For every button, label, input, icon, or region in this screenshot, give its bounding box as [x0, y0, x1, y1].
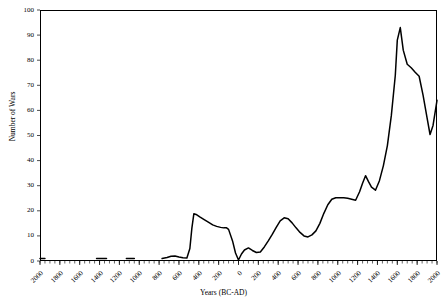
y-tick-label: 30 [12, 182, 34, 189]
y-tick-label: 40 [12, 157, 34, 164]
y-tick-label: 10 [12, 232, 34, 239]
data-series-line [40, 28, 437, 260]
y-axis-ticks [37, 10, 40, 261]
y-tick-label: 100 [12, 7, 34, 14]
y-axis-title: Number of Wars [8, 77, 17, 157]
x-axis-title: Years (BC-AD) [0, 288, 447, 297]
y-tick-label: 90 [12, 32, 34, 39]
chart-svg-layer [0, 0, 447, 306]
y-tick-label: 0 [12, 258, 34, 265]
x-axis-ticks [40, 261, 437, 265]
y-tick-label: 80 [12, 57, 34, 64]
y-tick-label: 20 [12, 207, 34, 214]
wars-line-chart: 0102030405060708090100 20001800160014001… [0, 0, 447, 306]
